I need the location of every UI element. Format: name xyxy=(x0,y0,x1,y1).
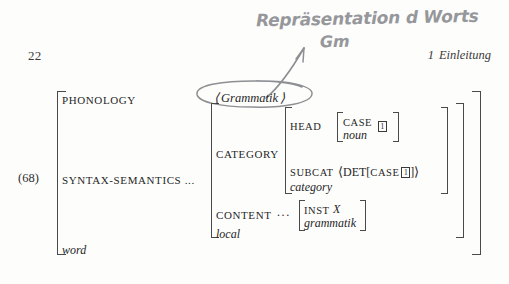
angle-close-icon: ⟩ xyxy=(414,164,419,179)
avm-value-inst: X xyxy=(333,202,340,217)
avm-local-bracket-right xyxy=(456,103,464,238)
avm-attribute-inst: INST xyxy=(304,205,330,216)
avm-type-local: local xyxy=(216,227,240,242)
page-folio-number: 22 xyxy=(28,48,42,64)
avm-value-subcat: ⟨DET[CASE1]⟩ xyxy=(338,164,419,180)
avm-outer-bracket-left xyxy=(57,91,66,255)
running-head-section-title: Einleitung xyxy=(439,48,491,62)
avm-content-bracket-right xyxy=(360,200,366,231)
avm-attribute-phonology: PHONOLOGY xyxy=(62,94,136,106)
avm-attribute-head: HEAD xyxy=(290,121,321,132)
handwritten-annotation-line-1: Repräsentation d Worts xyxy=(256,6,479,31)
avm-tag-box-1-value: 1 xyxy=(378,121,387,132)
avm-tag-box-case: 1 xyxy=(378,116,387,134)
avm-value-phonology-word: Grammatik xyxy=(221,91,278,105)
angle-close-icon: ⟩ xyxy=(280,90,285,105)
avm-type-grammatik: grammatik xyxy=(304,216,356,231)
avm-value-phonology: ⟨Grammatik⟩ xyxy=(214,90,285,106)
avm-attribute-syntax-semantics: SYNTAX-SEMANTICS ... xyxy=(62,174,195,186)
avm-category-bracket-right xyxy=(441,107,448,194)
scanned-book-page: 22 1Einleitung Repräsentation d Worts Gm… xyxy=(0,0,509,284)
avm-value-subcat-case-label: CASE xyxy=(370,167,399,178)
running-head: 1Einleitung xyxy=(428,48,491,63)
avm-attribute-content: CONTENT xyxy=(216,209,272,221)
avm-value-subcat-det: DET xyxy=(343,165,366,179)
avm-attribute-case: CASE xyxy=(343,117,372,128)
avm-attribute-category: CATEGORY xyxy=(216,148,279,160)
angle-open-icon: ⟨ xyxy=(214,90,219,105)
example-number: (68) xyxy=(18,171,39,186)
avm-tag-box-1: 1 xyxy=(401,167,410,178)
avm-type-category: category xyxy=(290,180,332,195)
avm-head-bracket-right xyxy=(393,112,399,142)
avm-type-word: word xyxy=(62,243,86,258)
avm-attribute-subcat: SUBCAT xyxy=(290,167,334,178)
handwritten-annotation-line-2: Gm xyxy=(320,32,350,51)
avm-content-ellipsis: ... xyxy=(277,205,291,220)
avm-type-noun: noun xyxy=(343,128,367,143)
running-head-section-number: 1 xyxy=(428,48,434,62)
avm-outer-bracket-right xyxy=(472,91,481,255)
